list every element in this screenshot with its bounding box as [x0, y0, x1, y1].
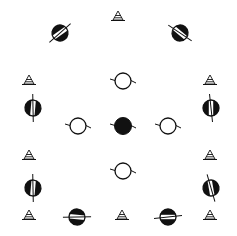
open-circle-icon — [110, 163, 136, 179]
diagram-svg — [0, 0, 237, 236]
open-circle-icon — [65, 118, 91, 134]
cone-markers-layer — [22, 11, 217, 220]
cone-icon — [111, 11, 125, 21]
cone-icon — [22, 75, 36, 85]
open-circle-icon — [110, 73, 136, 89]
cone-icon — [203, 150, 217, 160]
banded-circle-icon — [201, 173, 222, 203]
cone-icon — [22, 150, 36, 160]
banded-circle-icon — [44, 18, 76, 47]
solid-circles-layer — [110, 118, 136, 135]
cone-icon — [22, 210, 36, 220]
cone-icon — [203, 210, 217, 220]
symbol-diagram — [0, 0, 237, 236]
open-circle-icon — [155, 118, 181, 134]
banded-circle-icon — [24, 173, 42, 202]
solid-circle-icon — [110, 118, 136, 135]
banded-circle-icon — [203, 94, 219, 122]
cone-icon — [203, 75, 217, 85]
banded-circle-icon — [164, 18, 196, 48]
banded-circle-icon — [62, 208, 91, 226]
banded-circle-icon — [24, 93, 42, 122]
banded-circle-icon — [154, 209, 182, 225]
cone-icon — [115, 210, 129, 220]
